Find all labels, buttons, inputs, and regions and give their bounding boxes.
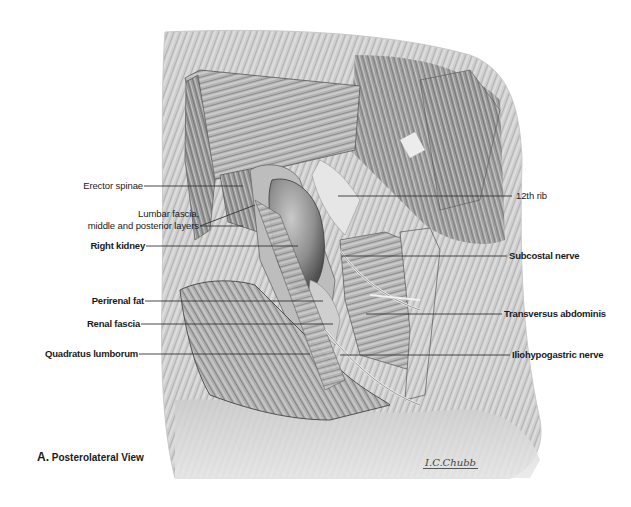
label-lumbar-fascia-line1: Lumbar fascia, — [138, 208, 199, 219]
artist-signature: I.C.Chubb — [423, 457, 478, 469]
label-lumbar-fascia-line2: middle and posterior layers — [88, 220, 199, 231]
label-iliohypogastric-nerve: Iliohypogastric nerve — [512, 349, 603, 360]
label-right-kidney: Right kidney — [90, 240, 145, 251]
label-12th-rib: 12th rib — [516, 190, 547, 201]
label-renal-fascia: Renal fascia — [87, 318, 140, 329]
label-erector-spinae: Erector spinae — [83, 180, 143, 191]
caption-letter: A. — [37, 450, 49, 464]
label-subcostal-nerve: Subcostal nerve — [509, 250, 579, 261]
caption-text: Posterolateral View — [52, 452, 144, 463]
label-transversus-abdominis: Transversus abdominis — [504, 308, 606, 319]
anatomical-figure: Erector spinae Lumbar fascia, middle and… — [0, 0, 631, 507]
label-quadratus-lumborum: Quadratus lumborum — [45, 348, 138, 359]
figure-caption: A. Posterolateral View — [37, 450, 144, 464]
label-perirenal-fat: Perirenal fat — [92, 295, 144, 306]
